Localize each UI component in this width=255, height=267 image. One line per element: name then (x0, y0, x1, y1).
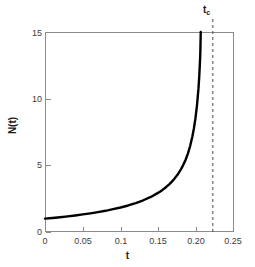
ytick-label-15: 15 (18, 28, 42, 38)
xtick-mark-020 (196, 227, 197, 232)
xtick-label-0: 0 (42, 236, 47, 246)
xtick-label-020: 0.20 (187, 236, 205, 246)
ytick-label-5: 5 (18, 160, 42, 170)
xtick-mark-015 (158, 227, 159, 232)
x-axis-title: t (0, 250, 255, 261)
ytick-mark-15 (46, 32, 51, 33)
xtick-label-01: 0.1 (115, 236, 128, 246)
xtick-label-005: 0.05 (74, 236, 92, 246)
y-axis-title: N(t) (7, 96, 18, 156)
critical-time-label: tc (203, 4, 210, 15)
critical-time-label-subscript: c (206, 9, 210, 16)
xtick-mark-025 (233, 227, 234, 232)
xtick-mark-005 (83, 227, 84, 232)
xtick-mark-01 (121, 227, 122, 232)
xtick-label-015: 0.15 (149, 236, 167, 246)
series-curve (45, 32, 201, 219)
ytick-mark-10 (46, 99, 51, 100)
ytick-label-10: 10 (18, 94, 42, 104)
xtick-mark-0 (45, 227, 46, 232)
xtick-label-025: 0.25 (224, 236, 242, 246)
ytick-mark-5 (46, 165, 51, 166)
chart-figure: 15 10 5 0 0 0.05 0.1 0.15 0.20 0.25 t N(… (0, 0, 255, 267)
ytick-label-0: 0 (18, 227, 42, 237)
ytick-mark-0 (46, 232, 51, 233)
plot-graphics (45, 32, 234, 232)
